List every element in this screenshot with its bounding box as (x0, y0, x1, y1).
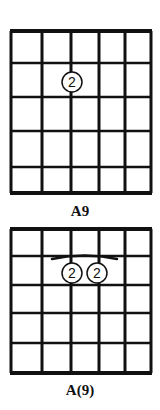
finger-marker: 2 (62, 263, 82, 283)
fretboard-grid: 22 (0, 0, 160, 410)
finger-number: 2 (68, 265, 76, 281)
finger-number: 2 (93, 265, 101, 281)
finger-marker: 2 (87, 263, 107, 283)
chord-name-label: A(9) (0, 382, 160, 399)
